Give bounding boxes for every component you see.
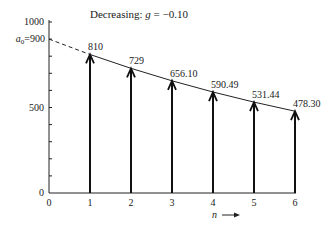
- x-tick-labels: 0123456: [47, 197, 298, 208]
- geometric-decrease-chart: Decreasing: g = −0.10 1000 500 0 a0=900 …: [0, 0, 336, 232]
- x-axis-title: n: [212, 209, 240, 220]
- x-tick-label: 3: [170, 197, 175, 208]
- chart-svg: Decreasing: g = −0.10 1000 500 0 a0=900 …: [0, 0, 336, 232]
- x-tick-label: 5: [252, 197, 257, 208]
- value-arrow: 590.49: [209, 79, 239, 193]
- svg-text:n: n: [212, 209, 217, 220]
- value-label: 590.49: [211, 79, 239, 90]
- x-tick-label: 4: [211, 197, 216, 208]
- value-arrow: 729: [127, 55, 144, 193]
- start-value-label: a0=900: [16, 33, 45, 46]
- value-label: 810: [88, 41, 103, 52]
- value-arrow: 810: [86, 41, 103, 193]
- value-label: 729: [129, 55, 144, 66]
- value-label: 478.30: [293, 98, 321, 109]
- y-tick-label-500: 500: [29, 102, 44, 113]
- value-arrows: 810729656.10590.49531.44478.30: [86, 41, 321, 193]
- y-tick-label-0: 0: [39, 187, 44, 198]
- x-tick-label: 2: [129, 197, 134, 208]
- x-tick-label: 0: [47, 197, 52, 208]
- trend-polyline: [90, 54, 295, 111]
- x-tick-label: 6: [293, 197, 298, 208]
- x-tick-label: 1: [88, 197, 93, 208]
- chart-title: Decreasing: g = −0.10: [90, 8, 188, 20]
- value-label: 531.44: [252, 89, 280, 100]
- dashed-extrapolation: [49, 39, 90, 54]
- y-tick-label-1000: 1000: [24, 16, 44, 27]
- value-label: 656.10: [170, 68, 198, 79]
- value-arrow: 478.30: [291, 98, 321, 193]
